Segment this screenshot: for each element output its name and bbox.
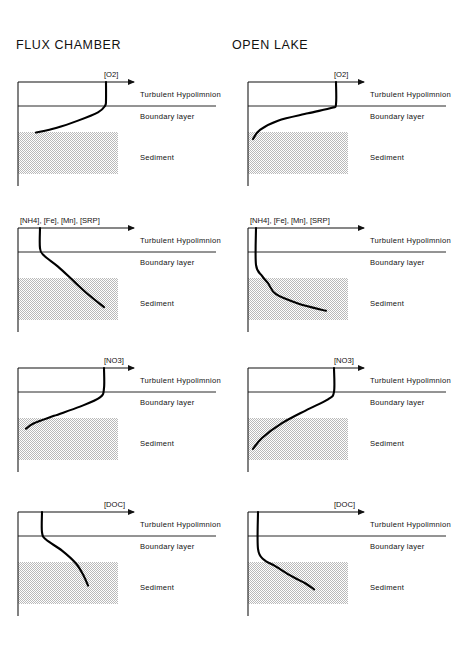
sediment-shading (248, 562, 348, 604)
zone-label-sediment: Sediment (370, 299, 405, 308)
zone-label-sediment: Sediment (370, 583, 405, 592)
zone-label-hypolimnion: Turbulent Hypolimnion (140, 520, 221, 529)
axis-species-label: [NH4], [Fe], [Mn], [SRP] (250, 216, 330, 225)
profile-curve (36, 82, 106, 133)
zone-label-hypolimnion: Turbulent Hypolimnion (370, 520, 451, 529)
panel-reduced-open-lake: [NH4], [Fe], [Mn], [SRP]Turbulent Hypoli… (248, 216, 451, 332)
sediment-shading (248, 278, 348, 320)
panel-reduced-flux-chamber: [NH4], [Fe], [Mn], [SRP]Turbulent Hypoli… (18, 216, 221, 332)
zone-label-boundary: Boundary layer (140, 542, 195, 551)
zone-label-hypolimnion: Turbulent Hypolimnion (140, 376, 221, 385)
zone-label-hypolimnion: Turbulent Hypolimnion (140, 90, 221, 99)
axis-species-label: [DOC] (334, 500, 355, 509)
zone-label-sediment: Sediment (140, 439, 175, 448)
zone-label-hypolimnion: Turbulent Hypolimnion (370, 376, 451, 385)
zone-label-boundary: Boundary layer (370, 112, 425, 121)
axis-species-label: [NO3] (334, 356, 354, 365)
figure-root: FLUX CHAMBER OPEN LAKE [O2]Turbulent Hyp… (0, 0, 458, 657)
panels-canvas: [O2]Turbulent HypolimnionBoundary layerS… (0, 0, 458, 657)
zone-label-sediment: Sediment (140, 299, 175, 308)
zone-label-boundary: Boundary layer (370, 542, 425, 551)
axis-species-label: [O2] (104, 70, 118, 79)
zone-label-hypolimnion: Turbulent Hypolimnion (370, 236, 451, 245)
panel-no3-open-lake: [NO3]Turbulent HypolimnionBoundary layer… (248, 356, 451, 472)
zone-label-boundary: Boundary layer (140, 258, 195, 267)
zone-label-sediment: Sediment (140, 583, 175, 592)
zone-label-boundary: Boundary layer (140, 398, 195, 407)
sediment-shading (248, 132, 348, 174)
zone-label-sediment: Sediment (140, 153, 175, 162)
sediment-shading (248, 418, 348, 460)
zone-label-sediment: Sediment (370, 153, 405, 162)
zone-label-boundary: Boundary layer (370, 258, 425, 267)
zone-label-hypolimnion: Turbulent Hypolimnion (140, 236, 221, 245)
sediment-shading (18, 278, 118, 320)
axis-species-label: [NO3] (104, 356, 124, 365)
panel-no3-flux-chamber: [NO3]Turbulent HypolimnionBoundary layer… (18, 356, 221, 472)
sediment-shading (18, 132, 118, 174)
sediment-shading (18, 562, 118, 604)
zone-label-boundary: Boundary layer (140, 112, 195, 121)
zone-label-boundary: Boundary layer (370, 398, 425, 407)
axis-species-label: [O2] (334, 70, 348, 79)
zone-label-hypolimnion: Turbulent Hypolimnion (370, 90, 451, 99)
zone-label-sediment: Sediment (370, 439, 405, 448)
profile-curve (253, 82, 336, 139)
panel-o2-flux-chamber: [O2]Turbulent HypolimnionBoundary layerS… (18, 70, 221, 186)
panel-doc-open-lake: [DOC]Turbulent HypolimnionBoundary layer… (248, 500, 451, 616)
axis-species-label: [NH4], [Fe], [Mn], [SRP] (20, 216, 100, 225)
axis-species-label: [DOC] (104, 500, 125, 509)
panel-o2-open-lake: [O2]Turbulent HypolimnionBoundary layerS… (248, 70, 451, 186)
panel-doc-flux-chamber: [DOC]Turbulent HypolimnionBoundary layer… (18, 500, 221, 616)
